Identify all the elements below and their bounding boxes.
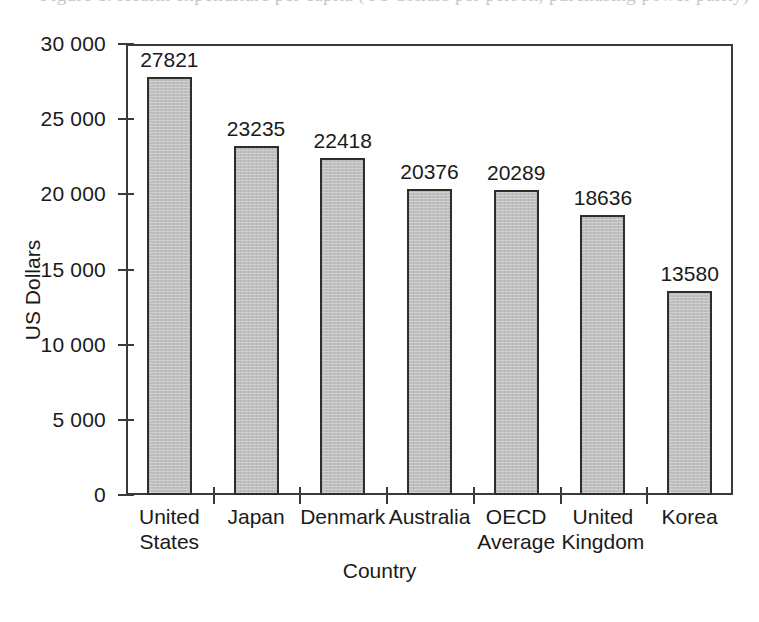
bar bbox=[234, 146, 279, 495]
y-axis-tick bbox=[118, 269, 134, 271]
y-axis-tick bbox=[118, 193, 134, 195]
bar-value-label: 20289 bbox=[456, 162, 576, 183]
x-axis-tick bbox=[299, 487, 301, 504]
bar-value-label: 18636 bbox=[543, 187, 663, 208]
y-axis-tick bbox=[118, 118, 134, 120]
y-axis-tick-label: 20 000 bbox=[14, 183, 106, 204]
y-axis-tick-label: 5 000 bbox=[14, 409, 106, 430]
bar bbox=[494, 190, 539, 495]
x-axis-tick bbox=[646, 487, 648, 504]
x-axis-title: Country bbox=[0, 560, 759, 581]
y-axis-tick bbox=[118, 494, 134, 496]
y-axis-tick-label: 30 000 bbox=[14, 33, 106, 54]
bar bbox=[580, 215, 625, 495]
y-axis-title: US Dollars bbox=[22, 240, 43, 340]
x-axis-tick bbox=[473, 487, 475, 504]
x-axis-tick bbox=[213, 487, 215, 504]
bar bbox=[667, 291, 712, 495]
y-axis-tick bbox=[118, 344, 134, 346]
y-axis-tick bbox=[118, 43, 134, 45]
y-axis-tick-label: 25 000 bbox=[14, 108, 106, 129]
bar-chart: 05 00010 00015 00020 00025 00030 000 278… bbox=[0, 0, 759, 622]
x-axis-tick bbox=[560, 487, 562, 504]
x-axis-category-line: States bbox=[109, 529, 229, 554]
bar bbox=[147, 77, 192, 495]
bar bbox=[407, 189, 452, 495]
bar-value-label: 22418 bbox=[283, 130, 403, 151]
x-axis-tick bbox=[386, 487, 388, 504]
x-axis-category-line: Korea bbox=[630, 504, 750, 529]
bar-value-label: 13580 bbox=[630, 263, 750, 284]
x-axis-category-label: Korea bbox=[630, 504, 750, 529]
y-axis-tick-label: 0 bbox=[14, 484, 106, 505]
bar-value-label: 27821 bbox=[109, 49, 229, 70]
y-axis-tick bbox=[118, 419, 134, 421]
bar bbox=[320, 158, 365, 495]
x-axis-category-line: Kingdom bbox=[543, 529, 663, 554]
